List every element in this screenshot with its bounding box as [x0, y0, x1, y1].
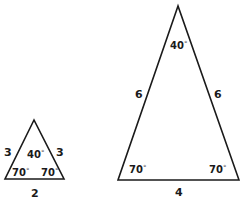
- large-right-side-label: 6: [214, 88, 222, 101]
- small-left-angle-label: 70°: [12, 167, 29, 178]
- large-left-angle-label: 70°: [129, 164, 146, 175]
- small-base-label: 2: [31, 187, 39, 200]
- large-right-angle-label: 70°: [209, 164, 226, 175]
- large-base-label: 4: [175, 186, 183, 199]
- small-left-side-label: 3: [4, 146, 12, 159]
- small-apex-angle-label: 40°: [27, 149, 44, 160]
- small-right-angle-label: 70°: [41, 167, 58, 178]
- small-triangle: 3 3 2 40° 70° 70°: [4, 120, 64, 200]
- large-triangle: 6 6 4 40° 70° 70°: [118, 6, 239, 199]
- small-right-side-label: 3: [56, 146, 64, 159]
- large-left-side-label: 6: [135, 88, 143, 101]
- diagram-canvas: 3 3 2 40° 70° 70° 6 6 4 40° 70° 70°: [0, 0, 240, 203]
- large-apex-angle-label: 40°: [170, 40, 187, 51]
